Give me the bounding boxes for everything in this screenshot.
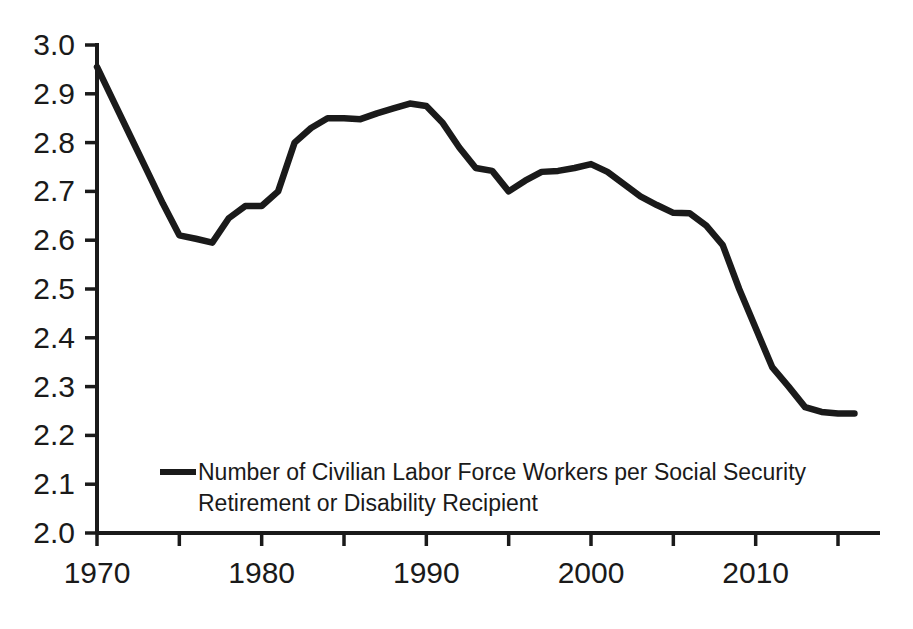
y-tick-label: 2.3 — [33, 370, 75, 403]
y-tick-label: 2.4 — [33, 321, 75, 354]
y-axis-tick-labels: 2.02.12.22.32.42.52.62.72.82.93.0 — [33, 28, 75, 549]
y-tick-label: 2.7 — [33, 174, 75, 207]
x-tick-label: 1970 — [64, 556, 131, 589]
y-tick-label: 2.6 — [33, 223, 75, 256]
x-tick-label: 1990 — [393, 556, 460, 589]
data-series-line — [97, 67, 854, 413]
legend-label-line1: Number of Civilian Labor Force Workers p… — [198, 459, 807, 485]
legend-label-line2: Retirement or Disability Recipient — [198, 490, 539, 516]
y-tick-label: 3.0 — [33, 28, 75, 61]
y-tick-label: 2.5 — [33, 272, 75, 305]
x-tick-label: 2010 — [722, 556, 789, 589]
line-chart: 2.02.12.22.32.42.52.62.72.82.93.0 197019… — [0, 0, 913, 629]
x-tick-label: 2000 — [558, 556, 625, 589]
y-tick-label: 2.1 — [33, 467, 75, 500]
y-tick-label: 2.2 — [33, 418, 75, 451]
y-tick-label: 2.8 — [33, 126, 75, 159]
y-tick-label: 2.0 — [33, 516, 75, 549]
y-tick-label: 2.9 — [33, 77, 75, 110]
x-tick-label: 1980 — [228, 556, 295, 589]
chart-container: 2.02.12.22.32.42.52.62.72.82.93.0 197019… — [0, 0, 913, 629]
x-axis-tick-labels: 19701980199020002010 — [64, 556, 789, 589]
